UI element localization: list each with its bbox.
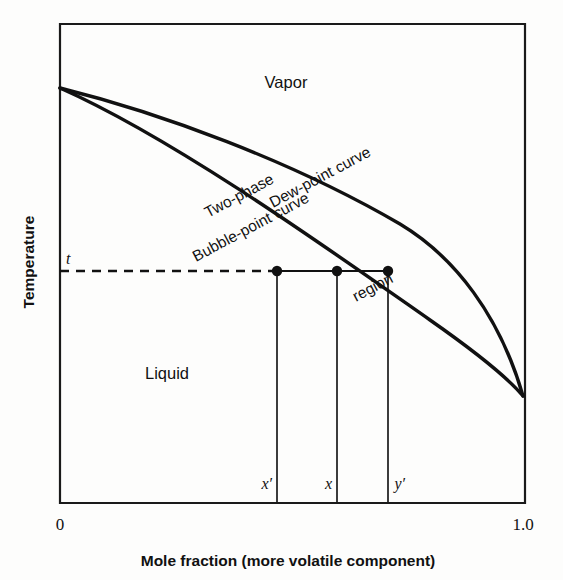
phase-diagram-figure: Vapor Liquid Two-phase region Dew-point …: [0, 0, 563, 580]
tie-point-x: [332, 266, 342, 276]
plot-svg: Vapor Liquid Two-phase region Dew-point …: [0, 0, 563, 580]
composition-label-x-prime: x′: [260, 475, 272, 492]
dew-point-curve: [60, 88, 523, 396]
tie-point-x-prime: [272, 266, 282, 276]
x-tick-label-left: 0: [56, 515, 65, 534]
isotherm-temperature-label: t: [66, 250, 71, 267]
liquid-region-label: Liquid: [145, 364, 189, 382]
composition-drop-lines: [277, 271, 388, 503]
bubble-point-curve: [60, 88, 523, 396]
vapor-region-label: Vapor: [265, 73, 308, 91]
frame-rect: [60, 24, 525, 503]
x-axis-title: Mole fraction (more volatile component): [141, 552, 436, 569]
x-tick-label-right: 1.0: [512, 515, 533, 534]
composition-label-y-prime: y′: [392, 475, 405, 493]
axis-frame: [60, 24, 525, 503]
y-axis-title: Temperature: [20, 215, 37, 308]
composition-label-x: x: [324, 475, 332, 492]
